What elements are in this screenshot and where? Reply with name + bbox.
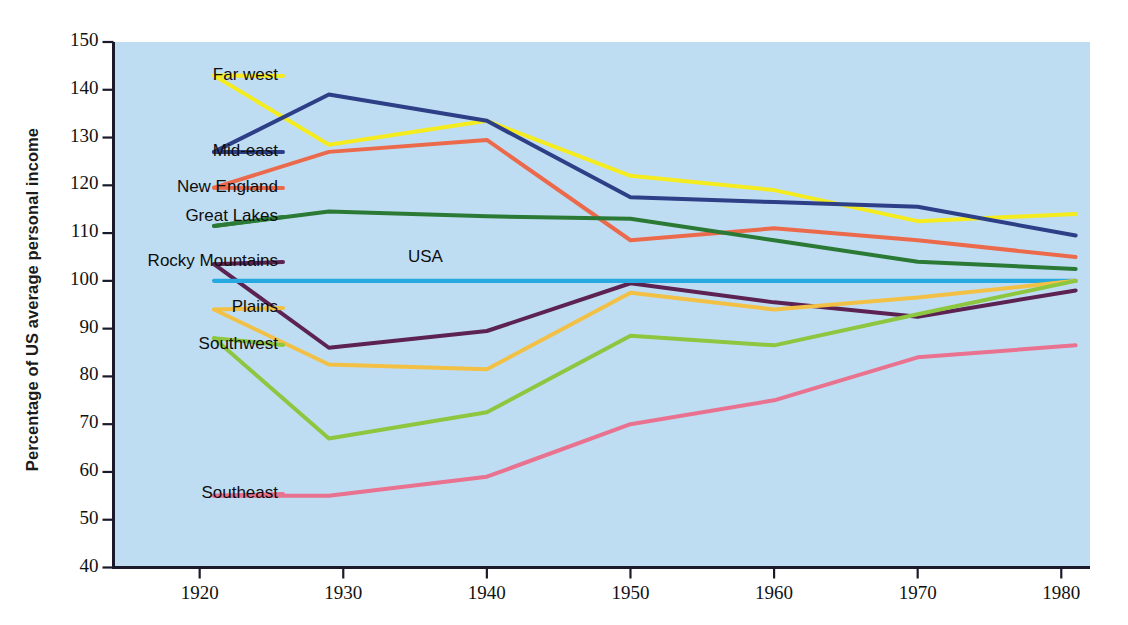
x-tick-label: 1920 <box>160 582 240 604</box>
x-tick-label: 1980 <box>1021 582 1101 604</box>
y-tick-label: 50 <box>47 507 99 529</box>
y-tick-label: 60 <box>47 459 99 481</box>
x-tick-label: 1950 <box>590 582 670 604</box>
series-label-great-lakes: Great Lakes <box>0 206 278 226</box>
chart-figure: Percentage of US average personal income… <box>0 0 1128 625</box>
series-label-plains: Plains <box>0 297 278 317</box>
series-label-far-west: Far west <box>0 65 278 85</box>
series-label-rocky-mountains: Rocky Mountains <box>0 251 278 271</box>
y-tick-label: 150 <box>47 29 99 51</box>
x-axis-ticks <box>200 568 1062 579</box>
y-tick-label: 100 <box>47 268 99 290</box>
x-tick-label: 1930 <box>303 582 383 604</box>
x-tick-label: 1940 <box>447 582 527 604</box>
series-label-new-england: New England <box>0 177 278 197</box>
usa-inline-label: USA <box>408 247 443 267</box>
x-tick-label: 1970 <box>878 582 958 604</box>
y-tick-label: 80 <box>47 363 99 385</box>
series-label-southwest: Southwest <box>0 334 278 354</box>
series-label-southeast: Southeast <box>0 483 278 503</box>
series-label-mid-east: Mid-east <box>0 141 278 161</box>
x-tick-label: 1960 <box>734 582 814 604</box>
y-tick-label: 40 <box>47 555 99 577</box>
y-tick-label: 70 <box>47 411 99 433</box>
